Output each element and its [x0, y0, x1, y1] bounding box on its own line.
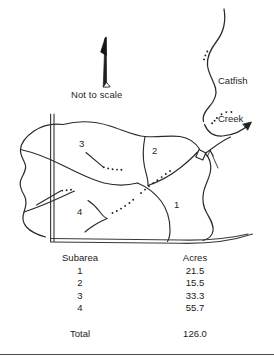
leader-line-subarea-3 [86, 153, 103, 167]
not-to-scale-note: Not to scale [71, 89, 122, 100]
catfish-creek-label-line2: Creek [218, 113, 248, 126]
north-arrow-icon [101, 38, 111, 88]
divide-2-3 [143, 137, 148, 186]
acreage-table: Subarea Acres 1 21.5 2 15.5 3 33.3 4 55.… [0, 252, 274, 344]
cell-subarea: 3 [40, 290, 120, 301]
table-row: 4 55.7 [0, 302, 274, 315]
stream-branch-left [24, 191, 75, 212]
catfish-creek-label: Catfish Creek [218, 50, 248, 150]
table-total-row: Total 126.0 [0, 328, 274, 341]
table-row: 3 33.3 [0, 290, 274, 303]
cell-subarea: 4 [40, 302, 120, 313]
subarea-label-3: 3 [79, 138, 84, 149]
divide-1-2 [138, 183, 171, 242]
table-gap [0, 315, 274, 328]
subarea-label-1: 1 [174, 199, 179, 210]
road-vertical [51, 114, 54, 242]
cell-acres: 15.5 [155, 277, 235, 288]
table-row: 2 15.5 [0, 277, 274, 290]
column-header-acres: Acres [155, 252, 235, 263]
total-label: Total [40, 328, 120, 339]
cell-acres: 21.5 [155, 265, 235, 276]
stream-subarea-4-main [88, 201, 107, 219]
road-horizontal [51, 234, 253, 243]
subarea-label-4: 4 [77, 206, 82, 217]
divide-1-2-upper [148, 152, 198, 186]
total-acres: 126.0 [155, 328, 235, 339]
cell-subarea: 2 [40, 277, 120, 288]
column-header-subarea: Subarea [40, 252, 120, 263]
outlet-diamond-icon [196, 150, 206, 161]
watershed-outer-boundary [20, 124, 63, 237]
table-header-row: Subarea Acres [0, 252, 274, 265]
table-row: 1 21.5 [0, 265, 274, 278]
subarea-label-2: 2 [152, 145, 157, 156]
cell-acres: 55.7 [155, 302, 235, 313]
bottom-divider-rule [0, 354, 274, 355]
catfish-creek-label-line1: Catfish [218, 75, 248, 88]
divide-3-4 [21, 150, 138, 186]
cell-acres: 33.3 [155, 290, 235, 301]
watershed-figure: Not to scale Catfish Creek 1 2 3 4 Subar… [0, 0, 274, 361]
cell-subarea: 1 [40, 265, 120, 276]
watershed-right-boundary [203, 154, 213, 241]
stream-subarea-4-branch [85, 219, 107, 233]
